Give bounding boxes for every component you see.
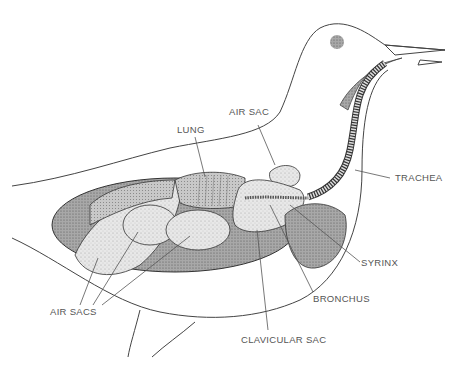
label-syrinx: SYRINX: [361, 257, 398, 268]
label-lung: LUNG: [177, 124, 205, 135]
bird-respiratory-diagram: AIR SAC LUNG TRACHEA SYRINX BRONCHUS CLA…: [0, 0, 458, 374]
trachea: [308, 63, 385, 197]
label-bronchus: BRONCHUS: [313, 293, 370, 304]
label-air-sacs: AIR SACS: [50, 306, 97, 317]
thoracic-air-sac-2: [166, 210, 230, 250]
beak: [385, 45, 445, 55]
bird-illustration: [0, 0, 458, 374]
label-air-sac: AIR SAC: [229, 106, 269, 117]
label-trachea: TRACHEA: [395, 172, 443, 183]
body-outline-back: [12, 24, 445, 186]
eye-icon: [330, 35, 344, 49]
interclavicular-sac: [285, 204, 346, 268]
label-clavicular-sac: CLAVICULAR SAC: [241, 334, 326, 345]
